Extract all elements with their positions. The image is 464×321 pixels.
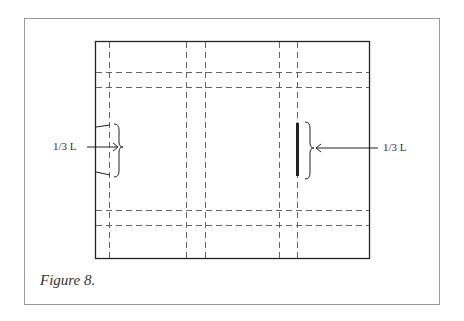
left-measure-label: 1/3 L xyxy=(53,140,77,152)
left-measure-marker xyxy=(87,124,123,177)
right-measure-marker xyxy=(298,122,379,179)
left-brace-icon xyxy=(114,124,123,177)
horizontal-fold-lines xyxy=(96,73,369,226)
right-measure-label: 1/3 L xyxy=(383,141,407,153)
right-brace-icon xyxy=(305,122,314,179)
figure-caption: Figure 8. xyxy=(40,272,95,289)
